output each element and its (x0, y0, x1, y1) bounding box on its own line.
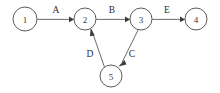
edge-label-b: B (109, 5, 115, 15)
edge-label-d: D (87, 49, 94, 59)
edge-a-arrowhead (69, 17, 74, 23)
edge-c: C (118, 30, 138, 67)
edge-label-a: A (53, 5, 60, 15)
edge-d-line (93, 33, 105, 67)
edge-a: A (37, 5, 74, 22)
edge-d: D (87, 28, 105, 68)
node-1[interactable]: 1 (13, 7, 37, 31)
edge-label-e: E (164, 5, 170, 15)
node-2[interactable]: 2 (74, 8, 96, 30)
node-5-label: 5 (109, 72, 114, 82)
edge-label-c: C (129, 49, 135, 59)
node-3[interactable]: 3 (130, 8, 152, 30)
node-4-label: 4 (194, 15, 199, 25)
node-3-label: 3 (139, 15, 144, 25)
node-2-label: 2 (83, 15, 88, 25)
node-5[interactable]: 5 (100, 65, 122, 87)
edge-e-arrowhead (180, 17, 185, 23)
edge-e: E (152, 5, 185, 22)
edge-b-arrowhead (125, 17, 130, 23)
node-1-label: 1 (23, 15, 28, 25)
graph-diagram: A B E D C 1 (0, 0, 220, 93)
graph-canvas: A B E D C 1 (0, 0, 220, 93)
edge-b: B (96, 5, 130, 22)
node-4[interactable]: 4 (185, 8, 207, 30)
